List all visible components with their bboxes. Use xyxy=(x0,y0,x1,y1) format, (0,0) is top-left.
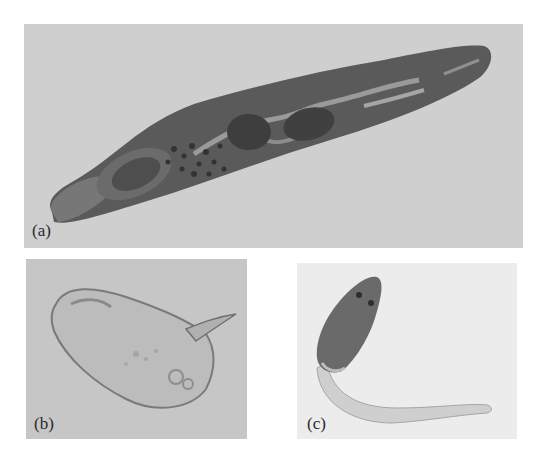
panel-label-b: (b) xyxy=(34,415,54,432)
fluke-illustration xyxy=(24,24,523,248)
panel-b-egg-image: (b) xyxy=(26,259,247,439)
cercaria-illustration xyxy=(297,263,517,439)
panel-c-cercaria-image: (c) xyxy=(297,263,517,439)
panel-label-a: (a) xyxy=(32,222,51,239)
panel-label-c: (c) xyxy=(307,415,326,432)
egg-illustration xyxy=(26,259,247,439)
panel-a-fluke-image: (a) xyxy=(24,24,523,248)
